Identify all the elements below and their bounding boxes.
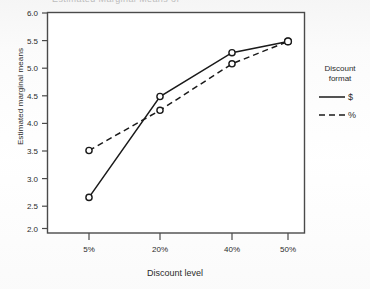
- y-axis-ticks: [42, 13, 47, 229]
- x-tick-label: 20%: [143, 245, 177, 254]
- x-tick-label: 5%: [72, 245, 106, 254]
- legend-item-dollar[interactable]: $: [318, 91, 370, 102]
- legend-item-percent[interactable]: %: [318, 109, 370, 120]
- y-tick-label: 2.5: [12, 202, 38, 211]
- y-tick-label: 2.0: [12, 225, 38, 234]
- y-axis-label: Estimated marginal means: [16, 37, 25, 157]
- x-tick-label: 40%: [215, 245, 249, 254]
- y-tick-label: 3.0: [12, 175, 38, 184]
- x-axis-ticks: [89, 233, 288, 240]
- legend-label-percent: %: [348, 110, 356, 120]
- plot-area: [0, 0, 370, 289]
- y-tick-label: 6.0: [12, 9, 38, 18]
- legend-key-solid-icon: [318, 92, 346, 102]
- legend-label-dollar: $: [348, 92, 353, 102]
- legend-key-dashed-icon: [318, 110, 346, 120]
- x-tick-label: 50%: [271, 245, 305, 254]
- legend-title: Discount format: [318, 64, 362, 84]
- figure-canvas: Estimated Marginal Means of: [0, 0, 370, 289]
- x-axis-label: Discount level: [110, 268, 240, 278]
- legend: Discount format $ %: [318, 64, 370, 120]
- legend-title-line2: format: [318, 74, 362, 84]
- legend-title-line1: Discount: [318, 64, 362, 74]
